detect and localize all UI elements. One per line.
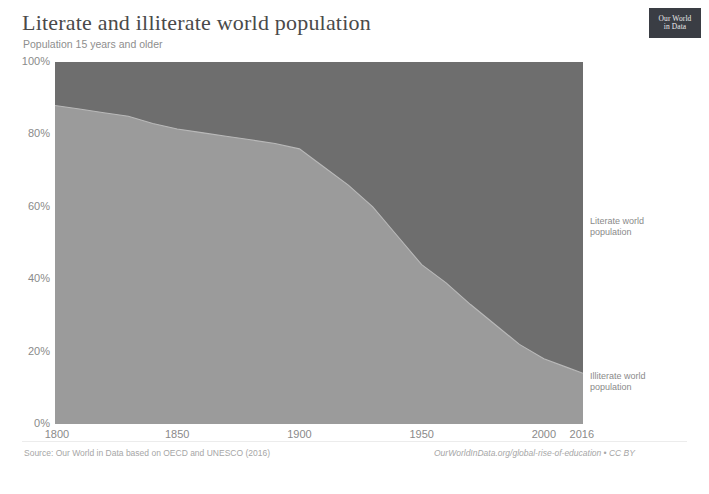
y-axis-tick-100: 100%	[22, 55, 50, 67]
stacked-area-chart	[55, 62, 583, 424]
y-axis-tick-60: 60%	[28, 200, 50, 212]
y-axis-tick-80: 80%	[28, 127, 50, 139]
y-axis-tick-40: 40%	[28, 272, 50, 284]
series-label-literate-line1: Literate world	[590, 216, 644, 227]
x-axis-tick-2016: 2016	[570, 428, 594, 440]
logo-line-2: in Data	[664, 23, 687, 31]
series-label-illiterate: Illiterate world population	[590, 371, 646, 394]
footer-link[interactable]: OurWorldInData.org/global-rise-of-educat…	[434, 448, 635, 458]
footer-source: Source: Our World in Data based on OECD …	[24, 448, 270, 458]
x-axis-tick-1950: 1950	[409, 428, 433, 440]
series-label-literate-line2: population	[590, 227, 644, 238]
page-title: Literate and illiterate world population	[22, 10, 371, 36]
x-axis-tick-2000: 2000	[532, 428, 556, 440]
x-axis-tick-1900: 1900	[287, 428, 311, 440]
x-axis-tick-1800: 1800	[45, 428, 69, 440]
series-label-literate: Literate world population	[590, 216, 644, 239]
y-axis-tick-20: 20%	[28, 345, 50, 357]
our-world-in-data-logo[interactable]: Our World in Data	[649, 8, 701, 38]
y-axis: 0%20%40%60%80%100%	[0, 0, 50, 494]
series-label-illiterate-line1: Illiterate world	[590, 371, 646, 382]
footer-divider	[22, 441, 687, 442]
series-label-illiterate-line2: population	[590, 382, 646, 393]
chart-plot-area	[55, 62, 583, 424]
x-axis-tick-1850: 1850	[165, 428, 189, 440]
